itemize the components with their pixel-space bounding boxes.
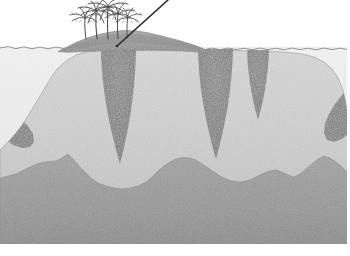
borehole-line	[117, 0, 168, 46]
sea-water-layer	[0, 47, 350, 246]
dissolution-pipe-2	[198, 49, 233, 159]
sea-surface-line-left	[0, 47, 72, 49]
sky-layer	[0, 0, 350, 50]
dissolution-pipe-3	[247, 50, 269, 120]
palm-tree-cluster	[70, 0, 142, 39]
flank-wedges-group	[0, 88, 349, 148]
flank-wedge-right	[324, 88, 349, 142]
dissolution-pipes-group	[101, 49, 269, 164]
palm-tree	[112, 8, 142, 38]
carbonate-platform-layer	[0, 50, 349, 206]
cross-section-canvas: Geologic cross-section of a carbonate at…	[0, 0, 350, 256]
volcanic-basement-layer	[0, 154, 350, 244]
cross-section-figure: Geologic cross-section of a carbonate at…	[0, 0, 350, 256]
borehole-collar	[116, 45, 119, 48]
bottom-margin	[0, 244, 350, 256]
sea-surface-line-right	[205, 48, 347, 50]
flank-wedge-left	[0, 104, 34, 148]
dissolution-pipe-1	[101, 50, 136, 164]
island-cap-shading	[70, 34, 202, 51]
island-cap-layer	[58, 31, 205, 53]
